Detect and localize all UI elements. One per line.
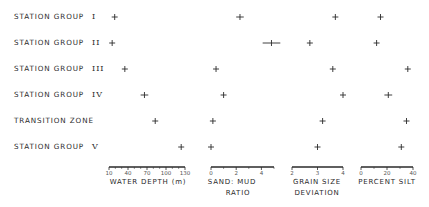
tick-label: 4: [341, 170, 345, 176]
tick-label: 40: [410, 170, 417, 176]
tick-label: 0: [359, 170, 363, 176]
tick-label: 40: [125, 170, 132, 176]
axis-title: WATER DEPTH (m): [110, 178, 187, 186]
tick-label: 20: [384, 170, 391, 176]
tick-label: 130: [180, 170, 191, 176]
tick-label: 70: [144, 170, 151, 176]
tick-label: 10: [106, 170, 113, 176]
axis-title-line2: RATIO: [226, 189, 251, 197]
tick-label: 4: [260, 170, 264, 176]
axis-title: GRAIN SIZE: [293, 178, 341, 186]
dot-plot: [0, 0, 429, 207]
tick-label: 100: [161, 170, 172, 176]
axis-title: SAND: MUD: [208, 178, 256, 186]
tick-label: 2: [234, 170, 238, 176]
tick-label: 3: [316, 170, 320, 176]
axis-title-line2: DEVIATION: [294, 189, 339, 197]
axis-title: PERCENT SILT: [358, 178, 416, 186]
tick-label: 2: [290, 170, 294, 176]
tick-label: 0: [209, 170, 213, 176]
